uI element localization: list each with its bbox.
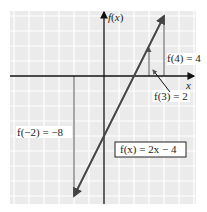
equation-label: f(x) = 2x − 4 [120,143,177,156]
point-label-f3: f(3) = 2 [154,90,188,103]
y-axis-label: f(x) [108,11,124,24]
point-label-f4: f(4) = 4 [167,52,201,65]
grid-background [10,11,196,204]
function-plot: f(x) x f(4) = 4 f(3) = 2 f(−2) = −8 f(x)… [0,0,207,212]
point-label-f-minus-2: f(−2) = −8 [17,126,64,139]
